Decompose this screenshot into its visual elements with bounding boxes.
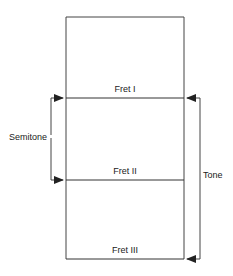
fingerboard — [66, 17, 184, 259]
fret-label-1: Fret I — [114, 84, 135, 94]
tone-label: Tone — [203, 170, 223, 180]
semitone-bracket — [51, 98, 63, 180]
tone-bracket — [187, 98, 200, 259]
fret-diagram: Fret I Fret II Fret III Semitone Tone — [0, 0, 233, 276]
semitone-label: Semitone — [9, 132, 47, 142]
fret-label-3: Fret III — [112, 245, 138, 255]
fret-label-2: Fret II — [113, 166, 137, 176]
